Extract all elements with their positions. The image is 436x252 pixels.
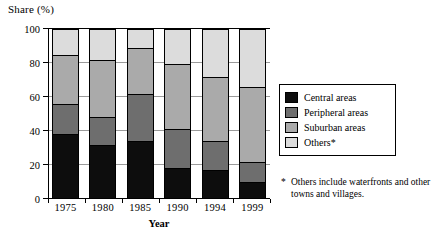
- legend-item-suburban-areas: Suburban areas: [285, 120, 389, 135]
- legend-label: Central areas: [304, 92, 356, 103]
- y-tick-label-20: 20: [30, 160, 41, 171]
- x-tick-mark-6: [270, 199, 271, 203]
- plot-frame: [48, 29, 270, 199]
- legend-label: Peripheral areas: [304, 107, 368, 118]
- y-tick-label-0: 0: [35, 194, 40, 205]
- x-axis-labels: 197519801985199019941999: [48, 202, 270, 213]
- footnote: * Others include waterfronts and other t…: [281, 176, 431, 200]
- legend-swatch-icon: [285, 137, 298, 148]
- x-tick-label-1994: 1994: [202, 202, 229, 213]
- chart-legend: Central areasPeripheral areasSuburban ar…: [279, 84, 396, 156]
- x-tick-label-1980: 1980: [89, 202, 116, 213]
- footnote-marker: *: [281, 176, 286, 188]
- legend-label: Others*: [304, 137, 336, 148]
- x-tick-label-1990: 1990: [164, 202, 191, 213]
- legend-swatch-icon: [285, 92, 298, 103]
- x-axis-title: Year: [48, 218, 270, 229]
- y-axis-title: Share (%): [8, 3, 54, 15]
- legend-item-central-areas: Central areas: [285, 90, 389, 105]
- y-tick-label-100: 100: [24, 24, 40, 35]
- y-tick-label-40: 40: [30, 126, 41, 137]
- x-tick-label-1975: 1975: [52, 202, 79, 213]
- legend-item-others-: Others*: [285, 135, 389, 150]
- legend-label: Suburban areas: [304, 122, 365, 133]
- y-tick-label-60: 60: [30, 92, 41, 103]
- x-tick-label-1985: 1985: [127, 202, 154, 213]
- y-tick-label-80: 80: [30, 58, 41, 69]
- x-tick-label-1999: 1999: [239, 202, 266, 213]
- legend-swatch-icon: [285, 122, 298, 133]
- chart-plot-area: 020406080100: [48, 29, 270, 199]
- legend-swatch-icon: [285, 107, 298, 118]
- legend-item-peripheral-areas: Peripheral areas: [285, 105, 389, 120]
- footnote-text: Others include waterfronts and other tow…: [281, 176, 431, 200]
